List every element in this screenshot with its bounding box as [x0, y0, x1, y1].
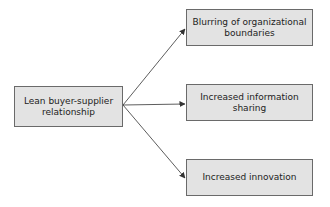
- target-node-label: Blurring of organizational boundaries: [193, 17, 307, 39]
- target-node-innovation: Increased innovation: [186, 159, 313, 196]
- target-node-blurring-boundaries: Blurring of organizational boundaries: [186, 9, 313, 46]
- target-node-information-sharing: Increased information sharing: [186, 84, 313, 121]
- arrow-to-innovation: [123, 105, 185, 178]
- arrow-to-information-sharing: [123, 104, 185, 105]
- arrow-to-blurring: [123, 29, 185, 105]
- target-node-label: Increased information sharing: [200, 92, 299, 114]
- source-node-lean-buyer-supplier: Lean buyer-supplier relationship: [14, 86, 123, 127]
- target-node-label: Increased innovation: [202, 172, 296, 183]
- source-node-label: Lean buyer-supplier relationship: [24, 96, 113, 118]
